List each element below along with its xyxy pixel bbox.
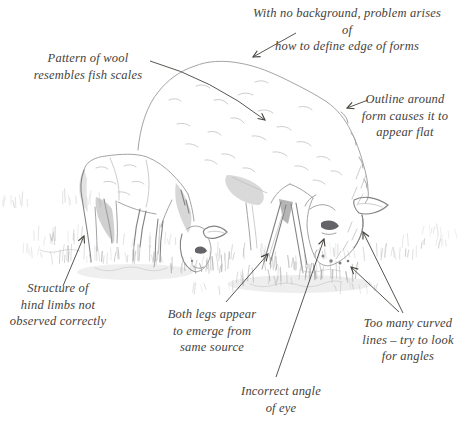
arrow-hind-limbs <box>63 236 84 286</box>
ewe-far-leg-shadow <box>225 175 264 205</box>
annotation-wool-pattern: Pattern of wool resembles fish scales <box>28 50 148 83</box>
ewe-ear <box>354 197 388 214</box>
lamb-eye <box>195 247 207 254</box>
annotation-legs-same-source: Both legs appear to emerge from same sou… <box>160 306 264 356</box>
annotation-eye-angle: Incorrect angle of eye <box>229 383 333 416</box>
annotation-curved-lines: Too many curved lines – try to look for … <box>352 315 464 365</box>
sketch-page: With no background, problem arises of ho… <box>0 0 465 427</box>
lamb-drawing <box>79 154 227 272</box>
arrow-eye-angle <box>276 239 324 377</box>
annotation-outline-flat: Outline around form causes it to appear … <box>348 91 462 141</box>
annotation-background-edge: With no background, problem arises of ho… <box>247 5 447 55</box>
grass <box>2 188 457 295</box>
arrow-curved-lines-2 <box>363 232 403 313</box>
lamb-ear <box>204 226 227 238</box>
annotation-hind-limbs: Structure of hind limbs not observed cor… <box>1 280 115 330</box>
ewe-eye <box>321 221 339 230</box>
arrow-wool-pattern <box>150 61 265 120</box>
